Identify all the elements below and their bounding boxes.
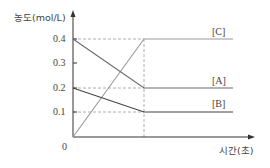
series-line-b — [73, 88, 233, 112]
ytick-label-0.2: 0.2 — [53, 83, 66, 93]
ytick-label-0.4: 0.4 — [53, 34, 66, 44]
concentration-time-chart — [0, 0, 270, 168]
y-axis-arrow-icon — [71, 10, 76, 17]
ytick-label-0.3: 0.3 — [53, 58, 66, 68]
x-axis-arrow-icon — [248, 135, 255, 140]
series-line-a — [73, 39, 233, 88]
origin-label: 0 — [62, 142, 67, 152]
series-label-c: [C] — [212, 27, 225, 37]
x-axis-label: 시간(초) — [219, 146, 253, 156]
series-label-a: [A] — [212, 76, 226, 86]
ytick-label-0.1: 0.1 — [53, 107, 66, 117]
y-axis-label: 농도(mol/L) — [14, 13, 66, 23]
series-label-b: [B] — [212, 99, 225, 109]
